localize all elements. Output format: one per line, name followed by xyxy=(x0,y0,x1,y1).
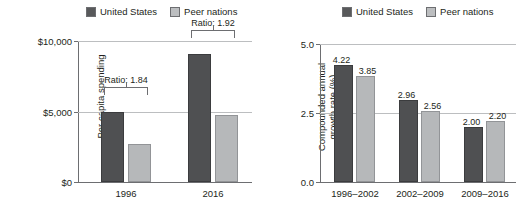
gridline-5-0 xyxy=(320,44,516,45)
bar-united-states-1996-2002: 4.22 xyxy=(334,65,353,182)
legend-swatch-united-states-icon xyxy=(86,7,96,17)
bar-value-united-states-2002-2009: 2.96 xyxy=(398,91,416,100)
ytick-label-10000: $10,000 xyxy=(38,36,72,47)
legend-item-peer-nations-right: Peer nations xyxy=(426,7,493,17)
legend-item-peer-nations: Peer nations xyxy=(170,7,237,17)
xtick-label-2009-2016: 2009–2016 xyxy=(461,188,509,199)
ytick-mark-0 xyxy=(74,182,78,183)
ratio-bracket-1996-icon xyxy=(104,87,148,95)
ytick-label-5-0: 5.0 xyxy=(301,39,314,50)
bar-peer-nations-1996-2002: 3.85 xyxy=(356,76,375,182)
plot-area-compounded-annual-growth-rate: Compounded annual growth rate (%) 5.0 2.… xyxy=(320,44,516,183)
bar-united-states-2002-2009: 2.96 xyxy=(399,100,418,182)
ytick-mark-10000 xyxy=(74,41,78,42)
legend-swatch-peer-nations-icon xyxy=(170,7,180,17)
gridline-10000 xyxy=(78,41,252,42)
ratio-bracket-2016-icon xyxy=(191,30,235,38)
ytick-mark-5000 xyxy=(74,112,78,113)
bar-peer-nations-2009-2016: 2.20 xyxy=(486,121,505,182)
legend-right: United States Peer nations xyxy=(342,5,493,19)
ratio-annotation-2016: Ratio: 1.92 xyxy=(191,30,235,38)
ytick-label-0: $0 xyxy=(61,177,72,188)
ytick-label-0-0: 0.0 xyxy=(301,177,314,188)
legend-label-peer-nations: Peer nations xyxy=(184,7,237,17)
ytick-label-5000: $5,000 xyxy=(43,106,72,117)
legend-swatch-peer-nations-icon xyxy=(426,7,436,17)
legend-label-peer-nations-right: Peer nations xyxy=(440,7,493,17)
xtick-label-1996: 1996 xyxy=(115,188,136,199)
legend-label-united-states: United States xyxy=(100,7,157,17)
bar-united-states-2009-2016: 2.00 xyxy=(464,127,483,182)
legend-item-united-states-right: United States xyxy=(342,7,413,17)
x-axis-line-left xyxy=(78,182,252,183)
bar-value-united-states-1996-2002: 4.22 xyxy=(333,56,351,65)
xtick-label-2002-2009: 2002–2009 xyxy=(396,188,444,199)
x-axis-line-right xyxy=(320,182,516,183)
bar-value-peer-nations-1996-2002: 3.85 xyxy=(359,67,377,76)
legend-left: United States Peer nations xyxy=(86,5,237,19)
bar-value-peer-nations-2002-2009: 2.56 xyxy=(424,102,442,111)
ytick-label-2-5: 2.5 xyxy=(301,108,314,119)
xtick-label-2016: 2016 xyxy=(202,188,223,199)
legend-label-united-states-right: United States xyxy=(356,7,413,17)
ytick-mark-5-0 xyxy=(316,44,320,45)
bar-value-united-states-2009-2016: 2.00 xyxy=(463,118,481,127)
ytick-mark-0-0 xyxy=(316,182,320,183)
ratio-annotation-1996: Ratio: 1.84 xyxy=(104,87,148,95)
bar-united-states-2016 xyxy=(188,54,211,182)
bar-value-peer-nations-2009-2016: 2.20 xyxy=(489,112,507,121)
panel-per-capita-spending: United States Peer nations Per capita sp… xyxy=(0,0,262,214)
legend-swatch-united-states-icon xyxy=(342,7,352,17)
xtick-label-1996-2002: 1996–2002 xyxy=(331,188,379,199)
plot-area-per-capita-spending: Per capita spending $10,000 $5,000 $0 Ra… xyxy=(78,41,252,183)
legend-item-united-states: United States xyxy=(86,7,157,17)
ytick-mark-2-5 xyxy=(316,113,320,114)
bar-peer-nations-1996 xyxy=(128,144,151,182)
two-panel-bar-chart-figure: United States Peer nations Per capita sp… xyxy=(0,0,525,214)
bar-peer-nations-2016 xyxy=(215,115,238,182)
bar-peer-nations-2002-2009: 2.56 xyxy=(421,111,440,182)
bar-united-states-1996 xyxy=(101,112,124,183)
panel-compounded-annual-growth-rate: United States Peer nations Compounded an… xyxy=(262,0,525,214)
